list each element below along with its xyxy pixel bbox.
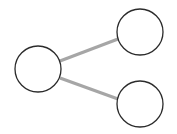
edge-left-to-top-right xyxy=(60,39,118,61)
node-top-right xyxy=(117,9,163,55)
nodes-group xyxy=(15,9,163,127)
edges-group xyxy=(60,39,118,99)
node-bottom-right xyxy=(117,81,163,127)
edge-left-to-bottom-right xyxy=(60,78,118,99)
node-left xyxy=(15,46,61,92)
graph-diagram xyxy=(0,0,177,134)
